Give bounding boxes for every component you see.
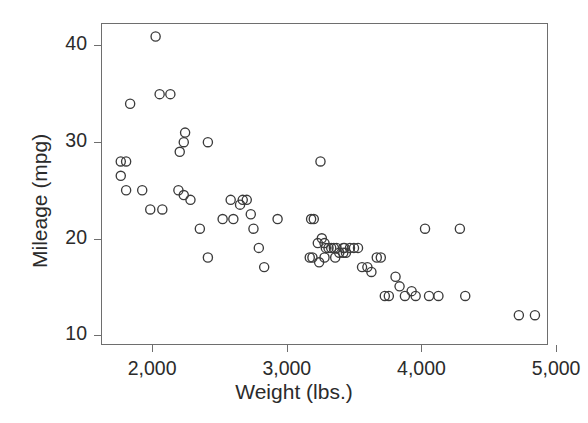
data-point	[400, 291, 409, 300]
data-point	[316, 157, 325, 166]
y-tick-mark	[94, 142, 101, 143]
x-tick-label: 3,000	[262, 357, 311, 380]
data-point	[249, 224, 258, 233]
data-point	[391, 272, 400, 281]
data-point	[226, 195, 235, 204]
data-point	[420, 224, 429, 233]
data-point	[179, 190, 188, 199]
data-point	[181, 128, 190, 137]
data-point	[424, 291, 433, 300]
data-point	[116, 171, 125, 180]
data-point	[254, 243, 263, 252]
data-point	[158, 205, 167, 214]
x-tick-mark	[152, 345, 153, 352]
data-point	[229, 214, 238, 223]
data-point	[122, 186, 131, 195]
x-tick-label: 2,000	[128, 357, 177, 380]
y-tick-label: 30	[0, 129, 87, 152]
y-tick-label: 20	[0, 226, 87, 249]
scatter-plot-figure: Mileage (mpg) Weight (lbs.) 102030402,00…	[0, 0, 588, 423]
x-tick-label: 5,000	[532, 357, 581, 380]
plot-area	[101, 23, 548, 345]
data-point	[434, 291, 443, 300]
data-point	[203, 138, 212, 147]
data-point	[155, 90, 164, 99]
x-tick-label: 4,000	[397, 357, 446, 380]
x-tick-mark	[556, 345, 557, 352]
data-point	[126, 99, 135, 108]
y-tick-mark	[94, 239, 101, 240]
data-point	[455, 224, 464, 233]
data-point	[514, 311, 523, 320]
data-point	[357, 263, 366, 272]
y-tick-mark	[94, 335, 101, 336]
data-point	[203, 253, 212, 262]
data-point	[530, 311, 539, 320]
x-axis-label: Weight (lbs.)	[0, 380, 588, 404]
data-point	[122, 157, 131, 166]
data-point	[395, 282, 404, 291]
x-tick-mark	[287, 345, 288, 352]
data-point	[461, 291, 470, 300]
y-tick-mark	[94, 45, 101, 46]
data-point	[175, 147, 184, 156]
data-point	[138, 186, 147, 195]
data-point	[218, 214, 227, 223]
data-point	[320, 253, 329, 262]
y-tick-label: 10	[0, 322, 87, 345]
data-point	[195, 224, 204, 233]
y-tick-label: 40	[0, 32, 87, 55]
data-point	[146, 205, 155, 214]
data-points-layer	[102, 24, 547, 344]
data-point	[174, 186, 183, 195]
data-point	[179, 138, 188, 147]
data-point	[151, 32, 160, 41]
data-point	[273, 214, 282, 223]
data-point	[116, 157, 125, 166]
data-point	[246, 210, 255, 219]
data-point	[166, 90, 175, 99]
x-tick-mark	[421, 345, 422, 352]
data-point	[315, 258, 324, 267]
data-point	[186, 195, 195, 204]
data-point	[260, 263, 269, 272]
